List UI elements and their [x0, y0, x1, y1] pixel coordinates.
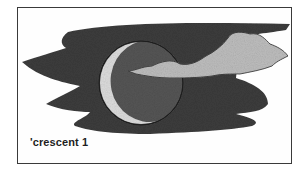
illustration-caption: 'crescent 1 — [30, 136, 88, 148]
